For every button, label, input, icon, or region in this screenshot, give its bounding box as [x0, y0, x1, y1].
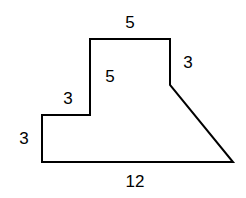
dimension-label-left-vertical: 3	[19, 130, 28, 147]
figure-canvas: 5 5 3 3 3 12	[0, 0, 246, 198]
polygon-shape	[0, 0, 246, 198]
dimension-label-bottom-edge: 12	[126, 173, 145, 190]
dimension-label-top-edge: 5	[125, 14, 134, 31]
dimension-label-inner-vertical: 5	[105, 68, 114, 85]
dimension-label-step-horizontal: 3	[63, 90, 72, 107]
dimension-label-right-vertical: 3	[183, 54, 192, 71]
